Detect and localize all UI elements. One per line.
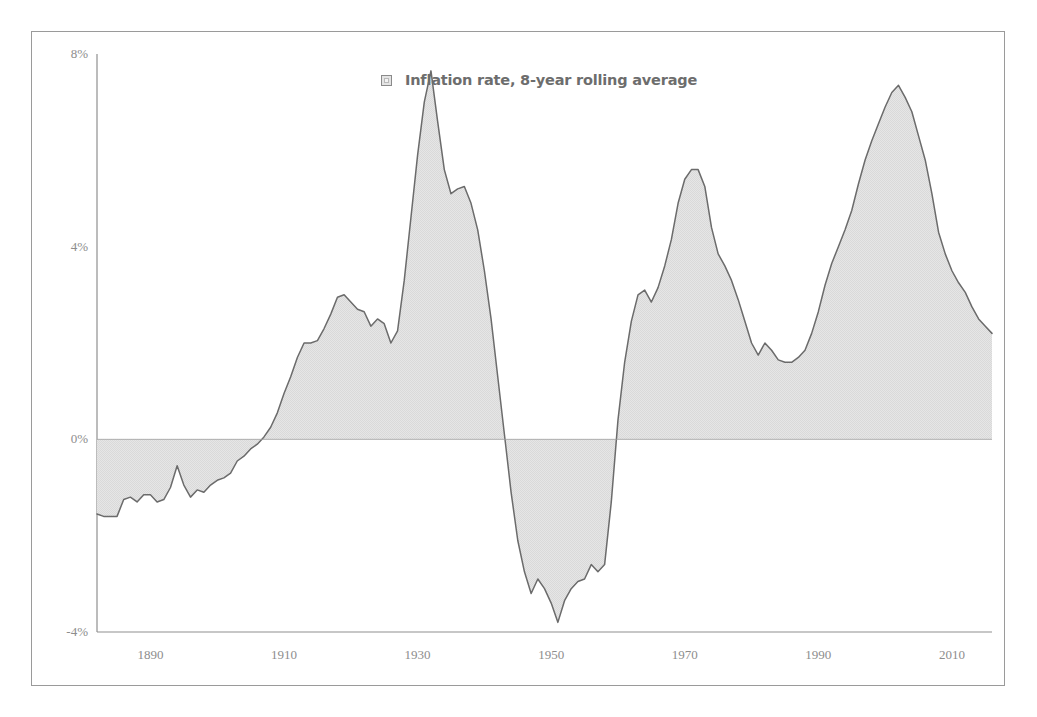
x-tick-1950: 1950 <box>521 647 581 663</box>
legend-swatch-icon <box>381 75 392 86</box>
series-area <box>97 71 992 623</box>
chart-screenshot: 8% 4% 0% -4% 1890 1910 1930 1950 1970 19… <box>0 0 1037 717</box>
y-tick-4: 4% <box>38 239 88 255</box>
x-tick-1970: 1970 <box>655 647 715 663</box>
x-tick-1890: 1890 <box>120 647 180 663</box>
legend-label: Inflation rate, 8-year rolling average <box>405 72 697 88</box>
x-tick-1990: 1990 <box>788 647 848 663</box>
y-tick-neg4: -4% <box>34 624 88 640</box>
y-tick-8: 8% <box>38 46 88 62</box>
inflation-area-chart <box>32 32 1006 687</box>
chart-legend: Inflation rate, 8-year rolling average <box>381 72 697 88</box>
x-tick-1910: 1910 <box>254 647 314 663</box>
y-tick-0: 0% <box>38 431 88 447</box>
chart-frame: 8% 4% 0% -4% 1890 1910 1930 1950 1970 19… <box>31 31 1005 686</box>
x-tick-1930: 1930 <box>388 647 448 663</box>
plot-area: 8% 4% 0% -4% 1890 1910 1930 1950 1970 19… <box>32 32 1006 687</box>
x-tick-2010: 2010 <box>922 647 982 663</box>
